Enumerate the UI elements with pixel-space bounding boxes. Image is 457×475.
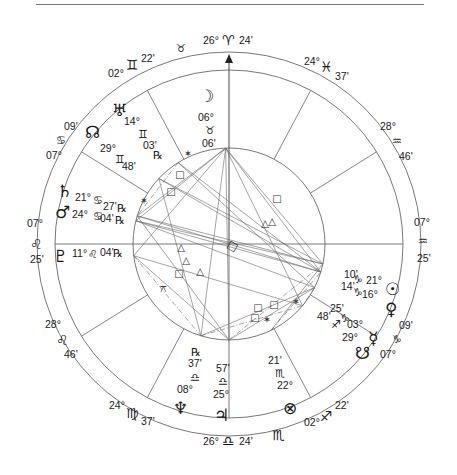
svg-text:07°: 07° xyxy=(414,216,430,228)
mars-icon: ♂ xyxy=(55,202,70,222)
aspect-line xyxy=(229,288,315,340)
svg-text:14°: 14° xyxy=(124,115,140,127)
house-cusp-line xyxy=(81,295,147,336)
cusp-cancer-label: 09' ♋ 07° xyxy=(46,120,78,161)
svg-text:46': 46' xyxy=(399,150,413,162)
svg-text:02°: 02° xyxy=(304,416,320,428)
svg-text:24': 24' xyxy=(239,435,253,447)
scorpio-intercepted-icon: ♏ xyxy=(272,427,285,443)
svg-text:21°: 21° xyxy=(75,191,91,203)
aspect-marker-square-icon: □ xyxy=(269,299,278,310)
cancer-icon: ♋ xyxy=(56,134,66,147)
saturn-icon: ♄ xyxy=(57,181,72,201)
svg-text:48': 48' xyxy=(122,160,136,172)
asc-label: 07° ♌ 25' xyxy=(27,217,44,265)
svg-text:26°: 26° xyxy=(203,435,219,447)
mercury-icon: ☿ xyxy=(368,328,378,348)
aspect-markers: ✶□□✶△△□△⚻□△△□□✶□✶ xyxy=(140,148,300,325)
svg-text:08°: 08° xyxy=(177,383,193,395)
svg-text:09': 09' xyxy=(399,319,413,331)
chart-wheel: 26° ♈ 24' ♉ 02° ♊ 22' 24° ♓ 37' 09' ♋ 07… xyxy=(0,0,457,475)
aquarius-icon: ♒ xyxy=(392,135,402,148)
aspect-line xyxy=(226,148,323,264)
svg-text:07°: 07° xyxy=(27,217,43,229)
aspect-line xyxy=(136,148,226,221)
svg-text:04': 04' xyxy=(100,246,114,258)
jupiter-icon: ♃ xyxy=(214,405,229,425)
svg-text:25°: 25° xyxy=(213,388,229,400)
svg-text:04': 04' xyxy=(100,212,114,224)
aspect-marker-trine-icon: △ xyxy=(177,242,185,253)
planet-pluto[interactable]: ♇ 11° ♌ 04' ℞ xyxy=(53,246,123,266)
planet-uranus[interactable]: ♅ 14° ♊ 03' ℞ xyxy=(112,100,163,161)
aspect-marker-trine-icon: △ xyxy=(268,216,276,227)
capricorn-icon: ♑ xyxy=(392,333,402,346)
cusp-sagittarius-label: 02° ♐ 22' xyxy=(304,399,349,428)
gemini-icon: ♊ xyxy=(126,57,139,73)
aspect-marker-square-icon: □ xyxy=(175,169,184,180)
aspect-marker-square-icon: □ xyxy=(250,312,259,323)
aspect-marker-sextile-icon: ✶ xyxy=(292,296,300,307)
libra-icon: ♎ xyxy=(222,433,235,449)
sagittarius-icon: ♐ xyxy=(320,408,333,424)
aspect-line xyxy=(137,148,225,216)
aspect-marker-sextile-icon: ✶ xyxy=(263,314,271,325)
svg-text:24°: 24° xyxy=(304,55,320,67)
aspect-marker-trine-icon: △ xyxy=(196,266,204,277)
svg-text:22': 22' xyxy=(335,399,349,411)
svg-text:21': 21' xyxy=(268,354,282,366)
taurus-intercepted-icon: ♉ xyxy=(176,42,186,55)
svg-text:24°: 24° xyxy=(109,399,125,411)
svg-text:25': 25' xyxy=(30,253,44,265)
svg-text:24°: 24° xyxy=(72,208,88,220)
svg-text:22': 22' xyxy=(141,52,155,64)
aspect-marker-square-icon: □ xyxy=(272,193,281,204)
cusp-aquarius-upper-label: 28° ♒ 46' xyxy=(380,120,413,162)
aspect-marker-trine-icon: △ xyxy=(182,255,190,266)
aquarius-dsc-icon: ♒ xyxy=(418,235,428,248)
house-cusp-line xyxy=(310,152,376,193)
venus-icon: ♀ xyxy=(385,299,397,319)
sun-icon: ☉ xyxy=(385,279,400,299)
planet-moon[interactable]: ☽ 06° ♉ 06' xyxy=(198,86,216,149)
svg-text:57': 57' xyxy=(216,362,230,374)
svg-text:24': 24' xyxy=(239,34,253,46)
planet-neptune[interactable]: ℞ 37' ♎ 08° ♆ xyxy=(173,346,202,418)
planet-jupiter[interactable]: 57' ♎ 25° ♃ xyxy=(213,362,230,425)
aspect-marker-square-icon: □ xyxy=(174,268,183,279)
svg-text:28°: 28° xyxy=(380,120,396,132)
ic-label: 26° ♎ 24' xyxy=(203,433,253,449)
svg-text:37': 37' xyxy=(335,70,349,82)
pluto-icon: ♇ xyxy=(53,246,68,266)
leo-sign-icon: ♌ xyxy=(88,248,98,261)
cusp-pisces-label: 24° ♓ 37' xyxy=(304,55,349,82)
cusp-virgo-label: 24° ♍ 37' xyxy=(109,399,155,427)
planet-north-node[interactable]: ☊ 29° ♊ 48' xyxy=(85,122,136,172)
svg-text:28°: 28° xyxy=(45,318,61,330)
mc-label: 26° ♈ 24' xyxy=(203,32,253,48)
svg-text:46': 46' xyxy=(64,348,78,360)
leo-icon: ♌ xyxy=(30,236,43,252)
mc-arrow-icon xyxy=(225,54,233,63)
svg-text:26°: 26° xyxy=(203,34,219,46)
svg-text:℞: ℞ xyxy=(153,149,163,161)
svg-text:21°: 21° xyxy=(366,274,382,286)
center-aspect-cluster-icon: □ xyxy=(224,238,240,254)
house-cusp-line xyxy=(274,90,311,159)
svg-text:29°: 29° xyxy=(342,331,358,343)
aspect-line xyxy=(134,256,201,336)
aries-icon: ♈ xyxy=(222,32,235,48)
svg-text:06': 06' xyxy=(202,137,216,149)
svg-text:27': 27' xyxy=(103,200,117,212)
neptune-icon: ♆ xyxy=(173,398,188,418)
virgo-icon: ♍ xyxy=(126,405,139,421)
aspect-marker-square-icon: □ xyxy=(166,186,175,197)
north-node-icon: ☊ xyxy=(85,122,100,142)
svg-text:16°: 16° xyxy=(362,288,378,300)
svg-text:03°: 03° xyxy=(347,318,363,330)
libra-sign-icon-2: ♎ xyxy=(218,375,228,388)
aspect-marker-quincunx-icon: ⚻ xyxy=(160,283,167,294)
svg-text:37': 37' xyxy=(188,357,202,369)
cusp-gemini-label: 02° ♊ 22' xyxy=(108,52,155,79)
svg-text:℞: ℞ xyxy=(117,202,127,214)
